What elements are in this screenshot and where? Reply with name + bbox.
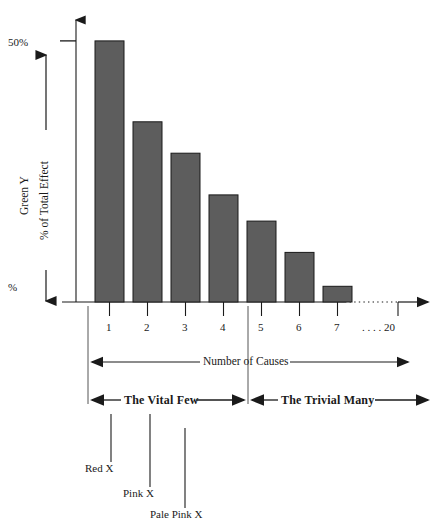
x-tick-marks	[110, 302, 399, 316]
x-tick-label-4: 4	[220, 321, 226, 333]
bar-4	[209, 195, 238, 302]
callout-label-pink-x: Pink X	[123, 487, 154, 499]
x-tick-label-7: 7	[334, 321, 340, 333]
y-tick-label-0: %	[8, 281, 17, 293]
bar-3	[171, 153, 200, 302]
bar-2	[133, 122, 162, 302]
x-axis-title: Number of Causes	[203, 355, 289, 367]
y-axis-title-total-effect: % of Total Effect	[38, 161, 50, 240]
x-tick-label-1: 1	[106, 321, 112, 333]
x-tick-label-20: . . . . 20	[362, 321, 395, 333]
x-tick-label-6: 6	[296, 321, 302, 333]
callout-label-pale-pink-x: Pale Pink X	[150, 508, 203, 520]
y-tick-label-50: 50%	[8, 36, 28, 48]
band-label-vital-few: The Vital Few	[124, 393, 199, 408]
y-axis	[60, 20, 76, 302]
bar-6	[285, 252, 314, 302]
bar-5	[247, 221, 276, 302]
bar-7	[323, 286, 352, 302]
bar-1	[95, 41, 124, 302]
x-tick-label-2: 2	[144, 321, 150, 333]
x-tick-label-3: 3	[182, 321, 188, 333]
pareto-chart-figure: 50% % Green Y % of Total Effect 1 2 3 4 …	[0, 0, 437, 523]
bar-series	[95, 41, 352, 302]
callout-label-red-x: Red X	[85, 462, 113, 474]
chart-canvas	[0, 0, 437, 523]
y-axis-title-green-y: Green Y	[18, 176, 30, 215]
band-label-trivial-many: The Trivial Many	[281, 393, 374, 408]
x-tick-label-5: 5	[258, 321, 264, 333]
